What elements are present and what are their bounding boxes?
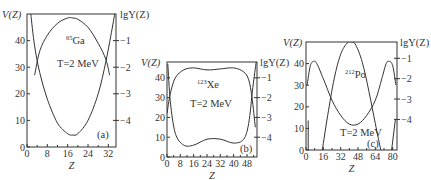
y-left-tick-label: 0: [160, 152, 165, 163]
element-symbol: Xe: [207, 79, 220, 90]
temperature-label: T=2 MeV: [190, 98, 232, 109]
y-left-tick-label: 40: [15, 35, 25, 46]
y-left-tick-label: 0: [299, 145, 304, 156]
y-left-tick-label: 40: [294, 58, 304, 69]
y-right-tick-label: −2: [401, 73, 412, 84]
y-right-tick-label: −3: [401, 94, 412, 105]
x-tick-label: 0: [304, 151, 309, 162]
x-axis-label: Z: [69, 160, 75, 171]
x-tick-label: 16: [189, 158, 199, 169]
nucleus-label: 123Xe: [197, 78, 219, 90]
panel-b: 081624324048010203040−1−2−3−4V(Z)lgY(Z)Z…: [141, 57, 290, 180]
x-tick-label: 0: [165, 158, 170, 169]
x-axis-label: Z: [349, 163, 355, 174]
y-right-tick-label: −3: [120, 88, 131, 99]
y-right-axis-label: lgY(Z): [120, 9, 150, 21]
panel-a: 08162432010203040−1−2−3−4V(Z)lgY(Z)Z65Ga…: [2, 9, 150, 171]
x-tick-label: 16: [318, 151, 328, 162]
y-right-tick-label: −1: [261, 72, 272, 83]
y-right-tick-label: −4: [401, 114, 412, 125]
y-right-tick-label: −2: [261, 92, 272, 103]
x-tick-label: 32: [215, 158, 225, 169]
temperature-label: T=2 MeV: [57, 58, 99, 69]
y-right-tick-label: −3: [261, 112, 272, 123]
y-left-tick-label: 20: [294, 101, 304, 112]
y-right-tick-label: −1: [120, 35, 131, 46]
x-axis-label: Z: [209, 170, 215, 180]
nucleus-label: 65Ga: [66, 34, 85, 46]
y-left-axis-label: V(Z): [283, 37, 303, 49]
x-tick-label: 24: [83, 148, 93, 159]
y-right-tick-label: −4: [261, 132, 272, 143]
figure: 08162432010203040−1−2−3−4V(Z)lgY(Z)Z65Ga…: [0, 0, 431, 180]
element-symbol: Ga: [73, 35, 86, 46]
x-tick-label: 16: [63, 148, 73, 159]
yield-curve: [392, 119, 396, 150]
panel-label: (c): [367, 138, 379, 150]
y-left-tick-label: 10: [294, 123, 304, 134]
panel-label: (b): [240, 143, 253, 155]
mass-number: 212: [345, 68, 355, 75]
x-tick-label: 40: [229, 158, 239, 169]
y-left-tick-label: 10: [155, 132, 165, 143]
x-tick-label: 32: [336, 151, 346, 162]
x-tick-label: 48: [242, 158, 252, 169]
y-right-tick-label: −4: [120, 115, 131, 126]
x-tick-label: 8: [178, 158, 183, 169]
y-left-tick-label: 0: [20, 142, 25, 153]
panel-label: (a): [97, 129, 109, 141]
mass-number: 123: [197, 78, 207, 85]
x-tick-label: 8: [45, 148, 50, 159]
y-right-axis-label: lgY(Z): [400, 37, 430, 49]
yield-curve: [31, 14, 115, 135]
y-left-tick-label: 30: [155, 92, 165, 103]
nucleus-label: 212Po: [345, 68, 366, 80]
x-tick-label: 80: [388, 151, 398, 162]
y-left-tick-label: 20: [155, 112, 165, 123]
y-left-axis-label: V(Z): [141, 57, 161, 69]
x-tick-label: 48: [353, 151, 363, 162]
y-left-tick-label: 10: [15, 115, 25, 126]
x-tick-label: 32: [103, 148, 113, 159]
x-tick-label: 24: [202, 158, 212, 169]
y-right-tick-label: −2: [120, 62, 131, 73]
y-left-axis-label: V(Z): [2, 9, 22, 21]
x-tick-label: 0: [25, 148, 30, 159]
y-left-tick-label: 20: [15, 88, 25, 99]
y-left-tick-label: 30: [15, 62, 25, 73]
x-tick-label: 64: [370, 151, 380, 162]
y-left-tick-label: 30: [294, 80, 304, 91]
y-right-tick-label: −1: [401, 53, 412, 64]
y-left-tick-label: 40: [155, 72, 165, 83]
panel-c: 01632486480010203040−1−2−3−4V(Z)lgY(Z)Z2…: [283, 37, 430, 174]
y-right-axis-label: lgY(Z): [260, 57, 290, 69]
